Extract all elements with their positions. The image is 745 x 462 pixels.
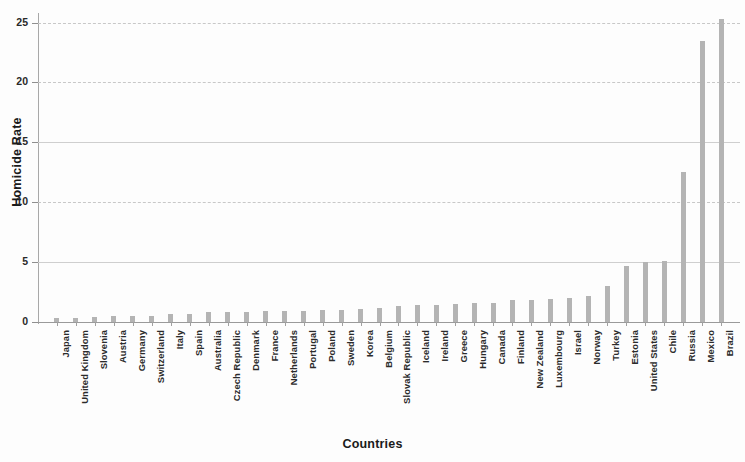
x-tick-label: Brazil: [724, 330, 735, 440]
x-tick-label: Mexico: [705, 330, 716, 440]
bar: [586, 296, 591, 322]
x-tick-mark: [512, 322, 513, 326]
x-tick-label: Greece: [458, 330, 469, 440]
x-tick-mark: [380, 322, 381, 326]
plot-area: [38, 13, 740, 322]
x-tick-label: Chile: [667, 330, 678, 440]
x-tick-label: Norway: [591, 330, 602, 440]
x-tick-label: Russia: [686, 330, 697, 440]
x-tick-label: Israel: [572, 330, 583, 440]
x-tick-label: Netherlands: [288, 330, 299, 440]
bar: [358, 309, 363, 322]
x-tick-mark: [588, 322, 589, 326]
x-tick-mark: [417, 322, 418, 326]
y-tick-label: 5: [2, 255, 28, 267]
x-tick-mark: [133, 322, 134, 326]
x-tick-mark: [550, 322, 551, 326]
x-tick-mark: [209, 322, 210, 326]
x-tick-label: Canada: [496, 330, 507, 440]
bar: [415, 305, 420, 322]
bar: [605, 286, 610, 322]
x-tick-mark: [531, 322, 532, 326]
x-tick-mark: [152, 322, 153, 326]
x-tick-mark: [626, 322, 627, 326]
bar: [377, 308, 382, 322]
x-tick-mark: [114, 322, 115, 326]
x-tick-label: Poland: [326, 330, 337, 440]
x-tick-label: Slovak Republic: [401, 330, 412, 440]
x-axis-title: Countries: [0, 437, 745, 451]
bar: [244, 312, 249, 322]
x-tick-label: United States: [648, 330, 659, 440]
gridline: [38, 202, 740, 203]
bar: [643, 262, 648, 322]
bar: [491, 303, 496, 322]
x-tick-mark: [361, 322, 362, 326]
x-tick-mark: [721, 322, 722, 326]
x-tick-mark: [493, 322, 494, 326]
bar: [681, 172, 686, 322]
x-tick-mark: [171, 322, 172, 326]
x-tick-label: Spain: [193, 330, 204, 440]
x-tick-mark: [683, 322, 684, 326]
x-tick-label: Germany: [136, 330, 147, 440]
x-tick-mark: [323, 322, 324, 326]
bar: [187, 314, 192, 322]
x-tick-mark: [76, 322, 77, 326]
bar: [567, 298, 572, 322]
x-tick-label: Sweden: [345, 330, 356, 440]
x-tick-mark: [190, 322, 191, 326]
y-axis-title: Homicide Rate: [10, 82, 24, 242]
x-tick-label: New Zealand: [534, 330, 545, 440]
bar: [700, 41, 705, 322]
x-tick-mark: [455, 322, 456, 326]
x-tick-label: Australia: [212, 330, 223, 440]
bar: [548, 299, 553, 322]
x-tick-mark: [228, 322, 229, 326]
bar: [472, 303, 477, 322]
bar: [662, 261, 667, 322]
gridline: [38, 82, 740, 83]
y-tick-label: 25: [2, 16, 28, 28]
bar: [396, 306, 401, 322]
y-tick-label: 0: [2, 315, 28, 327]
x-tick-label: Portugal: [307, 330, 318, 440]
bar: [624, 266, 629, 322]
x-tick-mark: [304, 322, 305, 326]
gridline: [38, 23, 740, 24]
x-tick-mark: [702, 322, 703, 326]
gridline: [38, 262, 740, 263]
x-tick-label: Korea: [364, 330, 375, 440]
bar: [529, 300, 534, 322]
x-tick-mark: [247, 322, 248, 326]
x-tick-label: Slovenia: [98, 330, 109, 440]
bar: [263, 311, 268, 322]
bar: [206, 312, 211, 322]
bar: [339, 310, 344, 322]
x-tick-label: Switzerland: [155, 330, 166, 440]
x-tick-mark: [342, 322, 343, 326]
x-tick-label: Luxembourg: [553, 330, 564, 440]
x-tick-label: Japan: [60, 330, 71, 440]
x-tick-label: Italy: [174, 330, 185, 440]
gridline: [38, 142, 740, 143]
bar: [434, 305, 439, 322]
x-tick-mark: [266, 322, 267, 326]
x-tick-label: Finland: [515, 330, 526, 440]
x-axis-line: [38, 322, 740, 323]
x-tick-label: Denmark: [250, 330, 261, 440]
x-tick-mark: [645, 322, 646, 326]
bar: [510, 300, 515, 322]
x-tick-mark: [57, 322, 58, 326]
x-tick-label: Hungary: [477, 330, 488, 440]
y-tick-label: 20: [2, 75, 28, 87]
x-tick-mark: [664, 322, 665, 326]
bar: [225, 312, 230, 322]
x-tick-label: Czech Republic: [231, 330, 242, 440]
x-tick-label: Turkey: [610, 330, 621, 440]
x-tick-label: Belgium: [383, 330, 394, 440]
x-tick-mark: [607, 322, 608, 326]
bar: [282, 311, 287, 322]
x-tick-mark: [474, 322, 475, 326]
x-tick-label: Iceland: [420, 330, 431, 440]
